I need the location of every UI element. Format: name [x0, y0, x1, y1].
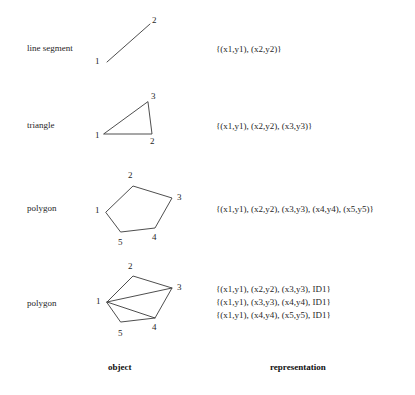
triangle-outline — [104, 102, 152, 134]
polygon-vertex-label-4: 4 — [152, 232, 157, 242]
polygon-vertex-label-5: 5 — [118, 237, 123, 247]
polygon-triangulated-outline — [107, 276, 172, 322]
representation-line-segment: {(x1,y1), (x2,y2)} — [216, 43, 282, 55]
polygon-triangulated-vertex-label-2: 2 — [128, 261, 133, 271]
polygon-triangulated-vertex-label-5: 5 — [118, 328, 123, 338]
representation-polygon: {(x1,y1), (x2,y2), (x3,y3), (x4,y4), (x5… — [216, 203, 374, 215]
row-label-polygon: polygon — [27, 203, 57, 214]
polygon-diagonal-1-4 — [107, 302, 155, 318]
representation-polygon-triangulated-line-3: {(x1,y1), (x4,y4), (x5,y5), ID1} — [216, 309, 331, 322]
row-label-polygon-triangulated: polygon — [27, 298, 57, 309]
line-segment-edge-1-2 — [107, 24, 150, 62]
line-segment-figure — [90, 15, 170, 75]
representation-polygon-triangulated-line-2: {(x1,y1), (x3,y3), (x4,y4), ID1} — [216, 296, 331, 309]
column-header-object: object — [108, 362, 132, 372]
line-segment-vertex-label-1: 1 — [95, 56, 100, 66]
polygon-outline — [106, 186, 172, 232]
polygon-triangulated-vertex-label-3: 3 — [177, 282, 182, 292]
representation-triangle: {(x1,y1), (x2,y2), (x3,y3)} — [216, 120, 312, 132]
row-label-line-segment: line segment — [27, 43, 73, 54]
diagram-canvas: line segment 1 2 {(x1,y1), (x2,y2)} tria… — [0, 0, 415, 395]
polygon-vertex-label-1: 1 — [95, 205, 100, 215]
triangle-vertex-label-3: 3 — [151, 91, 156, 101]
polygon-triangulated-vertex-label-1: 1 — [96, 296, 101, 306]
polygon-figure — [90, 175, 190, 245]
representation-polygon-triangulated-line-1: {(x1,y1), (x2,y2), (x3,y3), ID1} — [216, 283, 331, 296]
polygon-triangulated-vertex-label-4: 4 — [152, 322, 157, 332]
polygon-diagonal-1-3 — [107, 288, 172, 302]
row-label-triangle: triangle — [27, 120, 55, 131]
triangle-vertex-label-1: 1 — [95, 130, 100, 140]
triangle-vertex-label-2: 2 — [150, 136, 155, 146]
polygon-triangulated-figure — [90, 265, 190, 340]
triangle-figure — [90, 95, 180, 150]
column-header-representation: representation — [270, 362, 326, 372]
polygon-vertex-label-3: 3 — [177, 192, 182, 202]
line-segment-vertex-label-2: 2 — [152, 15, 157, 25]
polygon-vertex-label-2: 2 — [128, 170, 133, 180]
